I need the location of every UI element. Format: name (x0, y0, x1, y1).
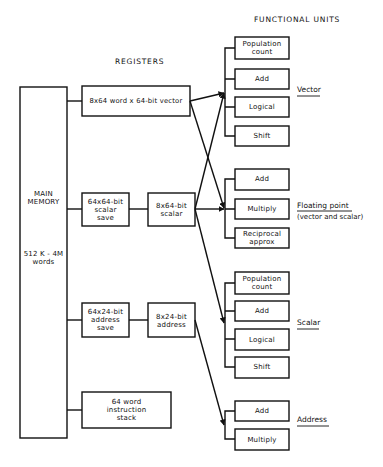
vector-group-label: Vector (297, 85, 321, 94)
address-multiply-unit: Multiply (235, 436, 289, 444)
functional-units-header: FUNCTIONAL UNITS (254, 15, 340, 24)
main-memory-title: MAIN MEMORY (20, 190, 67, 206)
vector-register-label: 8x64 word x 64-bit vector (82, 97, 190, 105)
floating-point-group-label: Floating point (vector and scalar) (297, 201, 363, 221)
vector-logical-unit: Logical (235, 103, 289, 111)
diagram-lines (0, 0, 383, 467)
vector-add-unit: Add (235, 75, 289, 83)
address-register-label: 8x24-bit address (148, 313, 195, 329)
scalar-group-label: Scalar (297, 318, 320, 327)
vector-shift-unit: Shift (235, 132, 289, 140)
address-save-label: 64x24-bit address save (82, 308, 129, 332)
scalar-shift-unit: Shift (235, 363, 289, 371)
address-add-unit: Add (235, 407, 289, 415)
address-group-label: Address (297, 415, 327, 424)
instruction-stack-label: 64 word instruction stack (82, 398, 171, 422)
vector-popcount-unit: Population count (235, 40, 289, 56)
fp-multiply-unit: Multiply (235, 205, 289, 213)
scalar-save-label: 64x64-bit scalar save (82, 198, 129, 222)
main-memory-size: 512 K - 4M words (20, 250, 67, 266)
scalar-logical-unit: Logical (235, 336, 289, 344)
registers-header: REGISTERS (115, 57, 164, 66)
fp-add-unit: Add (235, 175, 289, 183)
floating-point-sublabel: (vector and scalar) (297, 213, 363, 221)
scalar-register-label: 8x64-bit scalar (148, 202, 195, 218)
fp-reciprocal-unit: Reciprocal approx (235, 230, 289, 246)
scalar-add-unit: Add (235, 307, 289, 315)
scalar-popcount-unit: Population count (235, 275, 289, 291)
